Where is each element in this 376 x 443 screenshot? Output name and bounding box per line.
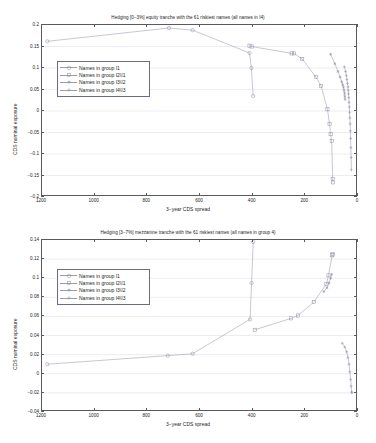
data-point-plus bbox=[345, 78, 348, 81]
y-tick-mark bbox=[354, 411, 357, 412]
y-tick-label: 0.14 bbox=[13, 237, 39, 242]
data-point-circle bbox=[67, 274, 71, 278]
y-tick-mark bbox=[354, 392, 357, 393]
y-tick-mark bbox=[41, 354, 44, 355]
data-point-plus bbox=[348, 363, 351, 366]
x-tick-label: 600 bbox=[195, 198, 203, 203]
x-tick-label: 1000 bbox=[89, 413, 99, 418]
data-point-plus bbox=[347, 92, 350, 95]
y-tick-label: 0.06 bbox=[13, 313, 39, 318]
x-tick-label: 1200 bbox=[36, 413, 46, 418]
data-point-plus bbox=[348, 370, 351, 373]
chart-title-mezzanine: Hedging [3−7%] mezzanine tranche with th… bbox=[0, 230, 376, 235]
y-tick-mark bbox=[41, 373, 44, 374]
legend-label: Names in group I3\I2 bbox=[77, 287, 125, 293]
y-tick-mark bbox=[354, 89, 357, 90]
y-tick-mark bbox=[354, 277, 357, 278]
legend-item[interactable]: Names in group I4\I3 bbox=[60, 294, 146, 301]
x-tick-label: 1000 bbox=[89, 198, 99, 203]
data-point-plus bbox=[350, 156, 353, 159]
y-tick-mark bbox=[41, 110, 44, 111]
data-point-plus bbox=[350, 385, 353, 388]
x-tick-mark bbox=[146, 239, 147, 242]
data-point-plus bbox=[67, 88, 70, 91]
y-tick-label: −0.15 bbox=[13, 172, 39, 177]
series-line bbox=[342, 343, 352, 393]
x-tick-mark bbox=[357, 193, 358, 196]
x-tick-mark bbox=[252, 239, 253, 242]
y-tick-mark bbox=[354, 258, 357, 259]
x-tick-mark bbox=[41, 24, 42, 27]
data-point-asterisk bbox=[329, 53, 332, 56]
data-point-plus bbox=[346, 85, 349, 88]
y-tick-mark bbox=[41, 335, 44, 336]
figure-canvas: Hedging [0−3%] equity tranche with the 6… bbox=[0, 0, 376, 443]
y-tick-mark bbox=[41, 89, 44, 90]
x-tick-mark bbox=[199, 408, 200, 411]
x-tick-label: 400 bbox=[248, 413, 256, 418]
plot-svg-equity bbox=[42, 25, 358, 197]
data-point-square bbox=[248, 44, 251, 47]
legend-mezzanine: Names in group I1Names in group I2\I1Nam… bbox=[57, 269, 150, 305]
data-point-plus bbox=[349, 122, 352, 125]
x-axis-label-equity: 3−year CDS spread bbox=[0, 206, 376, 212]
x-tick-mark bbox=[252, 193, 253, 196]
chart-panel-mezzanine-tranche: Hedging [3−7%] mezzanine tranche with th… bbox=[0, 221, 376, 442]
data-point-asterisk bbox=[343, 92, 346, 95]
y-tick-mark bbox=[41, 153, 44, 154]
y-axis-label-mezzanine: CDS nominal exposure bbox=[12, 319, 18, 370]
legend-label: Names in group I4\I3 bbox=[77, 295, 125, 301]
legend-marker-plus-icon bbox=[60, 86, 77, 93]
y-axis-label-equity: CDS nominal exposure bbox=[12, 104, 18, 155]
data-point-plus bbox=[347, 96, 350, 99]
y-tick-mark bbox=[354, 296, 357, 297]
data-point-asterisk bbox=[67, 289, 70, 292]
x-tick-mark bbox=[146, 193, 147, 196]
data-point-asterisk bbox=[341, 83, 344, 86]
data-point-square bbox=[67, 281, 70, 284]
y-tick-mark bbox=[41, 411, 44, 412]
data-point-square bbox=[67, 73, 70, 76]
x-tick-mark bbox=[94, 193, 95, 196]
x-tick-label: 200 bbox=[300, 198, 308, 203]
y-tick-mark bbox=[354, 373, 357, 374]
x-tick-label: 800 bbox=[142, 413, 150, 418]
data-point-plus bbox=[346, 356, 349, 359]
y-tick-mark bbox=[41, 67, 44, 68]
data-point-asterisk bbox=[342, 86, 345, 89]
legend-label: Names in group I2\I1 bbox=[77, 72, 125, 78]
y-tick-label: 0.2 bbox=[13, 22, 39, 27]
y-tick-label: −0.02 bbox=[13, 389, 39, 394]
y-tick-mark bbox=[354, 196, 357, 197]
x-tick-mark bbox=[94, 239, 95, 242]
legend-equity: Names in group I1Names in group I2\I1Nam… bbox=[57, 61, 150, 97]
y-tick-label: 0.12 bbox=[13, 256, 39, 261]
y-tick-mark bbox=[354, 335, 357, 336]
data-point-plus bbox=[345, 74, 348, 77]
y-tick-mark bbox=[354, 110, 357, 111]
x-tick-label: 0 bbox=[356, 413, 359, 418]
x-tick-mark bbox=[41, 193, 42, 196]
data-point-asterisk bbox=[334, 62, 337, 65]
data-point-asterisk bbox=[340, 80, 343, 83]
y-tick-label: 0.05 bbox=[13, 86, 39, 91]
y-tick-mark bbox=[354, 153, 357, 154]
legend-label: Names in group I1 bbox=[77, 65, 120, 71]
y-tick-label: 0.1 bbox=[13, 275, 39, 280]
legend-item[interactable]: Names in group I4\I3 bbox=[60, 86, 146, 93]
data-point-plus bbox=[349, 146, 352, 149]
data-point-plus bbox=[349, 378, 352, 381]
x-tick-mark bbox=[252, 24, 253, 27]
series-line bbox=[331, 54, 345, 99]
y-tick-mark bbox=[41, 132, 44, 133]
legend-label: Names in group I1 bbox=[77, 273, 120, 279]
data-point-plus bbox=[349, 129, 352, 132]
x-tick-mark bbox=[199, 239, 200, 242]
y-tick-mark bbox=[354, 175, 357, 176]
x-tick-mark bbox=[304, 193, 305, 196]
data-point-circle bbox=[67, 66, 71, 70]
x-tick-mark bbox=[357, 408, 358, 411]
x-tick-mark bbox=[304, 24, 305, 27]
y-tick-mark bbox=[354, 67, 357, 68]
legend-label: Names in group I3\I2 bbox=[77, 79, 125, 85]
